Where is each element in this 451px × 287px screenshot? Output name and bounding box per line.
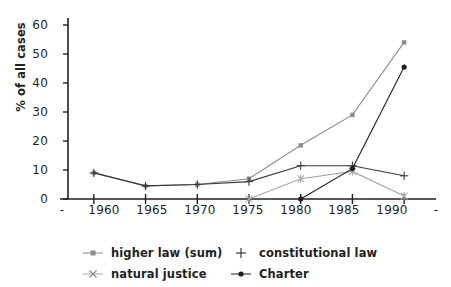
legend-item-charter[interactable]: Charter — [230, 267, 412, 281]
marker-charter-1980 — [298, 196, 303, 201]
marker-charter-1990 — [402, 64, 407, 69]
circle-line-marker-icon — [230, 268, 252, 280]
legend-label-constitutional-law: constitutional law — [259, 246, 377, 260]
legend-label-natural-justice: natural justice — [111, 267, 207, 281]
plus-marker-icon — [230, 247, 252, 259]
legend-item-natural-justice[interactable]: natural justice — [82, 267, 230, 281]
chart-container: % of all cases 0 10 20 30 40 50 60 1960 … — [0, 0, 451, 287]
marker-higher-law-sum-1985 — [350, 113, 354, 117]
series-line-natural-justice — [249, 171, 404, 199]
chart-legend: higher law (sum) constitutional law natu… — [82, 242, 412, 284]
marker-higher-law-sum-1990 — [402, 40, 406, 44]
marker-charter-1985 — [350, 166, 355, 171]
series-line-charter — [301, 67, 404, 199]
legend-item-constitutional-law[interactable]: constitutional law — [230, 246, 412, 260]
square-line-marker-icon — [82, 247, 104, 259]
legend-item-higher-law[interactable]: higher law (sum) — [82, 246, 230, 260]
legend-label-charter: Charter — [259, 267, 309, 281]
cross-marker-icon — [82, 268, 104, 280]
marker-higher-law-sum-1980 — [299, 143, 303, 147]
legend-label-higher-law: higher law (sum) — [111, 246, 222, 260]
series-line-higher-law-sum — [94, 42, 404, 186]
